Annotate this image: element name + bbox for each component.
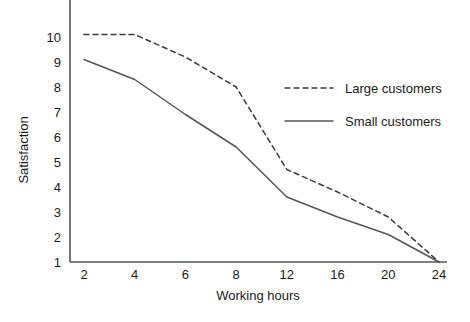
y-tick-label-9: 9: [54, 55, 61, 70]
chart-figure: 12345678910 246812162024 Satisfaction Wo…: [0, 0, 470, 322]
x-axis-label: Working hours: [216, 288, 300, 303]
x-tick-label-8: 8: [233, 267, 240, 282]
legend-label-large-customers: Large customers: [345, 81, 442, 96]
x-tick-label-6: 6: [182, 267, 189, 282]
line-chart: 12345678910 246812162024 Satisfaction Wo…: [0, 0, 470, 322]
y-tick-label-5: 5: [54, 155, 61, 170]
legend-label-small-customers: Small customers: [345, 114, 442, 129]
y-tick-label-4: 4: [54, 180, 61, 195]
y-tick-label-8: 8: [54, 80, 61, 95]
x-tick-label-20: 20: [381, 267, 395, 282]
x-tick-label-4: 4: [131, 267, 138, 282]
x-tick-label-12: 12: [280, 267, 294, 282]
y-tick-label-1: 1: [54, 255, 61, 270]
x-tick-label-2: 2: [80, 267, 87, 282]
y-tick-label-10: 10: [47, 30, 61, 45]
y-axis-label: Satisfaction: [16, 116, 31, 183]
y-tick-label-7: 7: [54, 105, 61, 120]
y-tick-label-2: 2: [54, 230, 61, 245]
y-tick-label-6: 6: [54, 130, 61, 145]
x-tick-label-24: 24: [432, 267, 446, 282]
x-tick-label-16: 16: [330, 267, 344, 282]
y-tick-label-3: 3: [54, 205, 61, 220]
